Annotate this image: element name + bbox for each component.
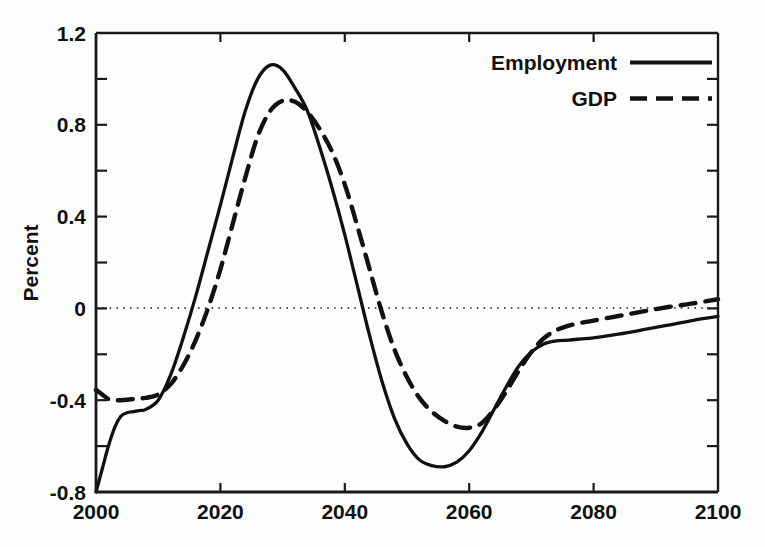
y-tick-label--0.4: -0.4 [50,389,87,412]
x-tick-label-2080: 2080 [570,500,617,523]
y-tick-label-0.8: 0.8 [57,113,87,136]
x-tick-label-2020: 2020 [197,500,244,523]
y-tick-labels-group: -0.8-0.400.40.81.2 [50,22,87,504]
chart-svg: 200020202040206020802100 -0.8-0.400.40.8… [0,0,765,547]
plot-area-background [96,33,718,492]
y-tick-label-1.2: 1.2 [57,22,86,45]
legend-label-gdp: GDP [571,87,617,110]
chart-figure: 200020202040206020802100 -0.8-0.400.40.8… [0,0,765,547]
y-axis-title: Percent [19,224,42,301]
x-tick-label-2100: 2100 [695,500,742,523]
y-tick-label--0.8: -0.8 [50,481,87,504]
x-tick-label-2040: 2040 [321,500,368,523]
legend-label-employment: Employment [491,51,617,74]
x-tick-label-2060: 2060 [446,500,493,523]
y-tick-label-0.4: 0.4 [57,205,87,228]
x-tick-labels-group: 200020202040206020802100 [73,500,742,523]
y-tick-label-0: 0 [74,297,86,320]
